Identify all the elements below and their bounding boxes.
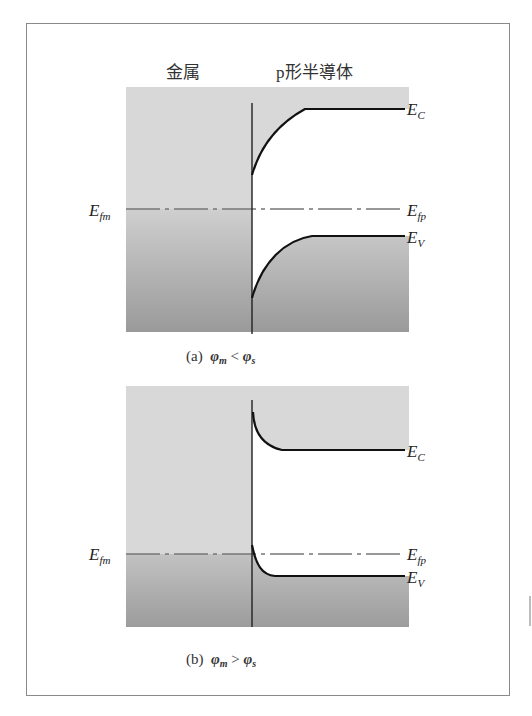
conduction-band-region [252,386,409,450]
metal-label: 金属 [166,64,200,81]
valence-band-edge [252,545,405,576]
band-diagram-svg [0,0,532,716]
label-valence-b: EV [407,569,424,589]
label-metal-fermi-a: Efm [89,202,110,222]
metal-lower-region [126,209,252,332]
valence-band-region [252,236,409,332]
label-semiconductor-fermi-a: Efp [407,202,426,222]
metal-upper-region [126,386,252,554]
label-semiconductor-fermi-b: Efp [407,546,426,566]
metal-lower-region [126,554,252,627]
label-conduction-a: EC [407,101,425,121]
label-valence-a: EV [407,229,424,249]
panel-b [126,386,409,627]
label-conduction-b: EC [407,443,425,463]
caption-b: (b) φm > φs [186,652,256,669]
valence-band-region [252,548,409,627]
metal-upper-region [126,87,252,209]
panel-a [126,87,409,334]
semiconductor-label: p形半導体 [276,64,353,81]
label-metal-fermi-b: Efm [89,546,110,566]
caption-a: (a) φm < φs [186,349,255,366]
